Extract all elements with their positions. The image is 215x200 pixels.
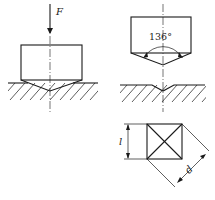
vickers-diagram: F 136° l [0,0,215,200]
d-extension-top [182,124,209,151]
left-hatching [0,83,105,100]
right-hatching [112,85,215,102]
l-arrow-top [126,124,130,130]
angle-label: 136° [149,31,172,42]
side-label: l [119,136,122,147]
right-figure: 136° [112,4,215,112]
right-indenter-tip [131,53,191,65]
diagonal-label: d [183,163,195,175]
indentation-view: l d [119,124,209,187]
force-label: F [55,6,64,17]
left-figure: F [0,4,105,112]
d-extension-bottom [147,159,175,187]
left-indenter-body [21,45,82,80]
d-arrow-top [200,154,206,159]
l-arrow-bottom [126,153,130,159]
